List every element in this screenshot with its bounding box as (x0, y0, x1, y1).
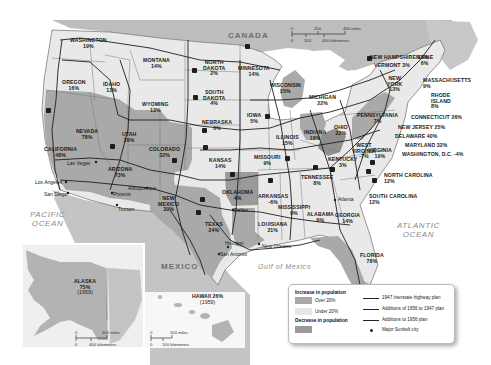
legend-label-under20: Under 20% (315, 309, 338, 314)
legend-label-1956: Additions to 1956 plan (382, 317, 427, 322)
state-label-south-dakota: SOUTHDAKOTA4% (203, 90, 225, 107)
legend-decrease-heading: Decrease in population (295, 318, 348, 323)
state-label-colorado: COLORADO32% (149, 147, 180, 158)
state-label-iowa: IOWA5% (247, 113, 261, 124)
state-label-georgia: GEORGIA14% (335, 213, 360, 224)
state-label-wisconsin: WISCONSIN15% (270, 83, 301, 94)
state-label-louisiana: LOUISIANA21% (258, 222, 287, 233)
main-scale-miles-0: 0 (291, 26, 293, 31)
state-label-virginia: VIRGINIA19% (368, 148, 392, 159)
state-label-massachusetts: MASSACHUSETTS9% (423, 78, 471, 89)
city-label-san-antonio: San Antonio (220, 251, 247, 257)
city-label-dallas: Dallas (234, 207, 248, 213)
hawaii-scale-km-100: 100 kilometers (162, 342, 189, 347)
state-label-vermont: VERMONT 3% (374, 63, 410, 69)
legend-swatch-over20 (295, 297, 312, 304)
city-label-houston: Houston (225, 240, 244, 246)
state-label-minnesota: MINNESOTA14% (238, 66, 270, 77)
map-legend: Increase in population Over 20% Under 20… (288, 284, 455, 344)
state-label-delaware: DELAWARE 40% (395, 134, 437, 140)
state-label-wyoming: WYOMING13% (142, 102, 169, 113)
legend-line-1956to1947-icon (363, 309, 379, 310)
city-label-new-orleans: New Orleans (262, 243, 291, 249)
canada-label: CANADA (228, 31, 269, 40)
state-label-tennessee: TENNESSEE8% (301, 175, 333, 186)
atlantic-line2: OCEAN (403, 230, 434, 239)
legend-label-over20: Over 20% (315, 298, 335, 303)
state-label-connecticut: CONNECTICUT 26% (411, 115, 462, 121)
state-label-ohio: OHIO22% (334, 125, 348, 136)
pacific-line1: PACIFIC (30, 210, 65, 219)
state-label-maryland: MARYLAND 32% (405, 143, 448, 149)
state-label-montana: MONTANA14% (143, 58, 170, 69)
state-label-arkansas: ARKANSAS-6% (258, 194, 288, 205)
city-label-san-diego: San Diego (44, 191, 67, 197)
hawaii-scale-miles-100: 100 miles (170, 330, 188, 335)
main-scale-miles-400: 400 miles (343, 26, 361, 31)
state-label-california: CALIFORNIA48% (44, 147, 77, 158)
atlantic-ocean-label: ATLANTIC OCEAN (397, 221, 440, 239)
state-label-nevada: NEVADA78% (76, 129, 98, 140)
pacific-ocean-label: PACIFIC OCEAN (30, 210, 65, 228)
state-label-new-jersey: NEW JERSEY 25% (398, 125, 445, 131)
alaska-scale-miles-400: 400 miles (102, 330, 120, 335)
legend-swatch-under20 (295, 308, 312, 315)
state-label-washington: WASHINGTON19% (70, 38, 107, 49)
legend-label-1956to1947: Additions of 1956 to 1947 plan (382, 306, 444, 311)
state-label-new-york: NEWYORK13% (387, 76, 402, 93)
state-label-maine: MAINE6% (416, 55, 433, 66)
state-label-north-carolina: NORTH CAROLINA12% (384, 173, 433, 184)
city-label-los-angeles: Los Angeles (35, 179, 62, 185)
state-label-texas: TEXAS24% (205, 222, 223, 233)
state-label-rhode-island: RHODEISLAND8% (431, 93, 451, 110)
state-label-nebraska: NEBRASKA6% (202, 120, 232, 131)
alaska-scale-km-0: 0 (75, 342, 77, 347)
state-label-florida: FLORIDA78% (360, 253, 384, 264)
legend-label-1947: 1947 interstate highway plan (382, 295, 440, 300)
city-label-las-vegas: Las Vegas (67, 160, 90, 166)
state-label-north-dakota: NORTHDAKOTA2% (203, 60, 225, 77)
state-label-oklahoma: OKLAHOMA4% (222, 190, 253, 201)
alaska-scale-miles-0: 0 (75, 330, 77, 335)
pacific-line2: OCEAN (32, 219, 63, 228)
state-label-dc: WASHINGTON, D.C. -4% (402, 152, 464, 158)
city-label-atlanta: Atlanta (338, 196, 354, 202)
main-scale-km-400: 400 kilometers (322, 38, 349, 43)
state-label-michigan: MICHIGAN22% (309, 95, 336, 106)
state-label-hawaii: HAWAII 26%(1959) (192, 294, 223, 305)
legend-line-1947-icon (363, 298, 379, 299)
legend-swatch-decrease (295, 326, 312, 333)
city-label-phoenix: Phoenix (113, 191, 131, 197)
state-label-alaska: ALASKA75%(1959) (74, 279, 96, 296)
population-highway-map: CANADA MEXICO PACIFIC OCEAN ATLANTIC OCE… (0, 0, 491, 365)
city-label-tucson: Tucson (118, 206, 134, 212)
main-scale-km-0: 0 (291, 38, 293, 43)
state-label-mississippi: MISSISSIPPI0% (278, 205, 310, 216)
state-label-arizona: ARIZONA73% (108, 167, 132, 178)
hawaii-scale-km-0: 0 (150, 342, 152, 347)
state-label-indiana: INDIANA18% (304, 130, 326, 141)
legend-increase-heading: Increase in population (295, 290, 346, 295)
alaska-scale-km-400: 400 kilometers (89, 342, 116, 347)
state-label-kansas: KANSAS14% (209, 158, 232, 169)
atlantic-line1: ATLANTIC (397, 221, 440, 230)
state-label-oregon: OREGON16% (62, 80, 86, 91)
legend-label-sunbelt: Major Sunbelt city (382, 327, 419, 332)
state-label-new-mexico: NEWMEXICO39% (158, 196, 179, 213)
legend-sunbelt-city-icon (370, 329, 373, 332)
city-label-albuquerque: Albuquerque (128, 185, 156, 191)
hawaii-scale-miles-0: 0 (150, 330, 152, 335)
state-label-alabama: ALABAMA6% (307, 212, 334, 223)
main-scale-km-200: 200 (304, 38, 311, 43)
state-label-illinois: ILLINOIS15% (276, 135, 299, 146)
state-label-missouri: MISSOURI9% (254, 155, 280, 166)
mexico-label: MEXICO (161, 262, 199, 271)
state-label-utah: UTAH29% (122, 132, 136, 143)
legend-line-1956-icon (363, 320, 379, 321)
gulf-of-mexico-label: Gulf of Mexico (258, 262, 311, 271)
state-label-idaho: IDAHO13% (103, 82, 120, 93)
state-label-south-carolina: SOUTH CAROLINA12% (369, 194, 417, 205)
state-label-pennsylvania: PENNSYLVANIA7% (357, 113, 398, 124)
main-scale-miles-200: 200 (314, 26, 321, 31)
